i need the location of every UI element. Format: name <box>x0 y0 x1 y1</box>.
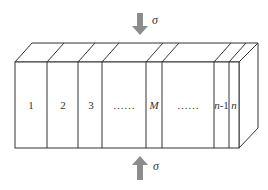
layer-label-M: M <box>148 99 159 111</box>
layered-block-diagram: σ 1 2 3 …… M …… n-1 n σ <box>0 0 268 190</box>
layer-label-n-minus-1: n-1 <box>214 99 229 111</box>
layer-label-ellipsis-1: …… <box>113 99 135 111</box>
bottom-stress-arrow: σ <box>132 156 160 180</box>
layer-label-2: 2 <box>60 99 66 111</box>
top-stress-arrow: σ <box>132 13 159 35</box>
top-sigma-label: σ <box>152 13 159 27</box>
layer-label-ellipsis-2: …… <box>177 99 199 111</box>
layer-label-n: n <box>231 99 237 111</box>
arrow-down-icon <box>132 13 148 35</box>
block-top-face <box>15 43 258 62</box>
layer-label-3: 3 <box>88 99 94 111</box>
bottom-sigma-label: σ <box>153 159 160 173</box>
block-right-face <box>239 43 258 148</box>
arrow-up-icon <box>132 156 148 180</box>
layer-label-1: 1 <box>28 99 34 111</box>
